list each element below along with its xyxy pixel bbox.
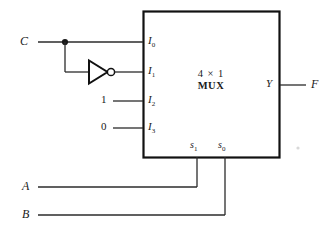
label-const-one: 1 (101, 93, 107, 105)
pin-sub-i2: 2 (152, 100, 156, 108)
pin-sub-i1: 1 (152, 71, 156, 79)
pin-label-y: Y (266, 77, 272, 89)
chip-label-line1: 4 × 1 (163, 68, 259, 79)
pin-sub-s1: 1 (194, 145, 198, 153)
pin-label-i0: I0 (148, 34, 155, 49)
label-input-b: B (22, 207, 29, 222)
pin-label-i2: I2 (148, 93, 155, 108)
label-output-f: F (311, 77, 318, 92)
pin-sub-i0: 0 (152, 41, 156, 49)
pin-label-s1: s1 (190, 139, 197, 153)
circuit-diagram-canvas: C 1 0 I0 I1 I2 I3 4 × 1 MUX Y F s1 s0 A … (0, 0, 336, 236)
chip-label-line2: MUX (163, 80, 259, 91)
circuit-schematic-svg (0, 0, 336, 236)
not-gate-triangle-icon (89, 61, 108, 84)
label-input-a: A (22, 179, 29, 194)
label-const-zero: 0 (101, 120, 107, 132)
scan-speck-artifact (296, 146, 299, 149)
pin-label-i1: I1 (148, 64, 155, 79)
label-input-c: C (20, 34, 28, 49)
pin-label-i3: I3 (148, 120, 155, 135)
pin-sub-i3: 3 (152, 127, 156, 135)
pin-label-s0: s0 (218, 139, 225, 153)
pin-sub-s0: 0 (222, 145, 226, 153)
not-gate-bubble-icon (107, 68, 114, 75)
